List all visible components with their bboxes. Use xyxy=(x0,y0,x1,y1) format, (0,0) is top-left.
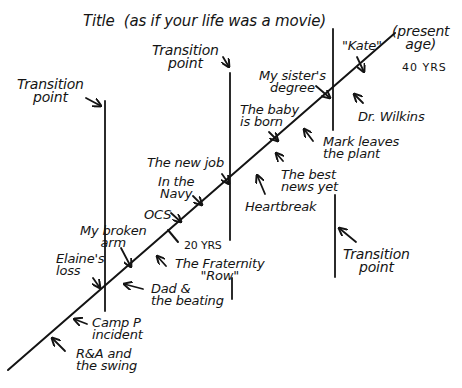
arrow-rda-swing xyxy=(52,338,65,351)
arrow-ocs xyxy=(171,213,181,222)
arrow-camp-p xyxy=(74,319,87,324)
event-baby-born: The baby is born xyxy=(240,104,299,128)
arrow-mark-leaves xyxy=(304,129,313,141)
event-elaines-loss: Elaine's loss xyxy=(56,253,104,277)
arrow-broken-arm xyxy=(121,248,131,267)
event-navy: In the Navy xyxy=(158,176,194,200)
arrow-dr-wilkins xyxy=(354,94,363,103)
event-fraternity-row: The Fraternity "Row" xyxy=(175,258,264,282)
arrow-best-news xyxy=(276,153,283,161)
arrow-transition-right xyxy=(339,228,356,242)
transition-point-middle-label: Transition point xyxy=(152,44,219,70)
arrow-elaines-loss xyxy=(93,278,100,288)
event-heartbreak: Heartbreak xyxy=(245,201,316,213)
diagram-title: Title (as if your life was a movie) xyxy=(83,13,326,29)
present-age-value: 40 YRS xyxy=(402,62,447,74)
arrow-transition-middle xyxy=(223,57,229,67)
transition-point-left-label: Transition point xyxy=(17,78,84,104)
arrow-heartbreak xyxy=(257,175,265,194)
arrow-navy xyxy=(193,196,202,205)
present-age-label: (present age) xyxy=(392,25,449,51)
event-broken-arm: My broken arm xyxy=(80,225,147,249)
event-dad-beating: Dad & the beating xyxy=(151,283,224,307)
event-new-job: The new job xyxy=(147,157,224,169)
event-mark-leaves: Mark leaves the plant xyxy=(323,136,399,160)
transition-point-right-label: Transition point xyxy=(343,248,410,274)
event-dr-wilkins: Dr. Wilkins xyxy=(358,111,424,123)
event-camp-p: Camp P incident xyxy=(92,317,143,341)
twenty-years-tick xyxy=(168,230,178,242)
life-timeline-diagram: Title (as if your life was a movie) (pre… xyxy=(0,0,462,388)
event-sisters-degree: My sister's degree xyxy=(259,70,326,94)
event-best-news: The best news yet xyxy=(281,169,338,193)
arrow-transition-left xyxy=(86,98,101,106)
arrow-dad-beating xyxy=(124,284,143,289)
arrow-fraternity xyxy=(157,256,166,266)
event-rda-swing: R&A and the swing xyxy=(76,348,137,372)
event-ocs: OCS xyxy=(144,209,171,221)
event-kate: "Kate" xyxy=(342,40,382,52)
diagram-lines xyxy=(0,0,462,388)
twenty-years-label: 20 YRS xyxy=(184,240,222,252)
